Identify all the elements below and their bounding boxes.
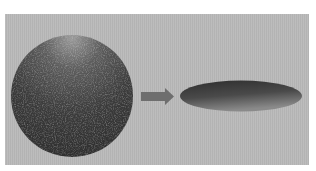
sphere — [11, 35, 133, 157]
diagram-canvas — [0, 0, 316, 171]
transform-arrow-icon — [141, 88, 174, 105]
flattened-ellipsoid — [180, 81, 302, 112]
